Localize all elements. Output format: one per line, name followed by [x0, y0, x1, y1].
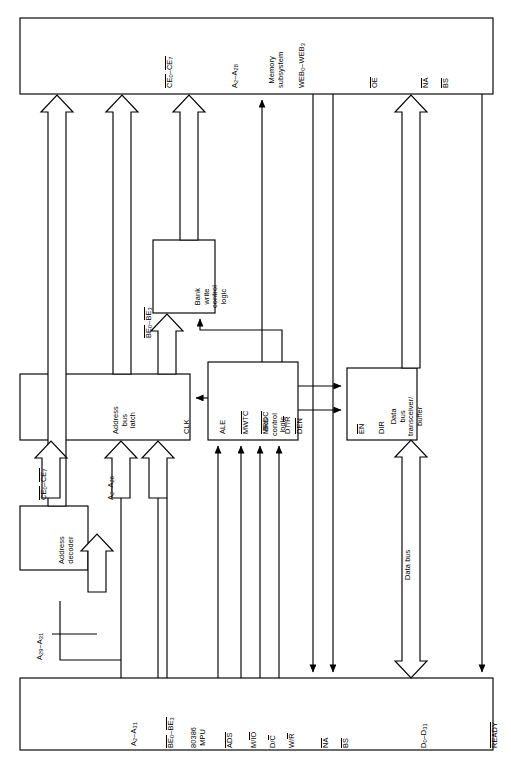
chip-enable-bus-label: CE0–CE7 — [40, 468, 49, 500]
memory-pin-ce: CE0–CE7 — [166, 56, 175, 88]
mpu-pin-w-r: W/R — [288, 733, 297, 748]
memory-pin-address: A2–A28 — [231, 64, 240, 88]
mpu-title: 80386MPU — [190, 727, 207, 748]
byte-enable-bus-label: BE0–BE3 — [145, 307, 154, 338]
bank-write-control-logic-label: Bankwritecontrollogic — [194, 285, 229, 308]
bus-control-pin-mwtc: MWTC — [242, 411, 251, 434]
memory-pin-bs: BS — [442, 78, 451, 88]
mpu-pin-m-io: M/IO — [250, 732, 259, 748]
mpu-pin-na: NA — [322, 738, 331, 748]
address-bus-label: A2–A28 — [107, 476, 116, 500]
transceiver-pin-dir: DIR — [378, 421, 387, 434]
diagram-canvas: CE0–CE7 A2–A28 WEB0–WEB3 Memorysubsystem… — [0, 0, 511, 765]
mpu-pin-address: A2–A31 — [130, 722, 139, 746]
data-bus-transceiver-label: Databustransceiver/buffer — [390, 397, 425, 436]
memory-pin-na: NA — [422, 78, 431, 88]
memory-subsystem-title: Memorysubsystem — [268, 52, 285, 88]
mpu-pin-ready: READY — [491, 722, 500, 748]
mpu-pin-ads: ADS — [226, 733, 235, 749]
address-bus-latch-label: Addressbuslatch — [112, 406, 138, 434]
bus-control-pin-den: DEN — [296, 418, 305, 434]
data-bus-label: Data bus — [404, 550, 413, 580]
memory-pin-oe: OE — [371, 77, 380, 88]
memory-pin-web: WEB0–WEB3 — [298, 43, 307, 88]
mpu-pin-data: D0–D31 — [420, 723, 429, 748]
mpu-pin-byte-enable: BE0–BE3 — [167, 717, 176, 748]
transceiver-pin-en: EN — [358, 424, 367, 434]
mpu-pin-d-c: D/C — [269, 735, 278, 748]
address-decoder-label: Addressdecoder — [58, 536, 75, 564]
bus-control-logic-label: Buscontrollogic — [262, 413, 288, 436]
address-bus-latch-clk-pin: CLK — [183, 419, 192, 434]
bus-control-pin-ale: ALE — [219, 420, 228, 434]
upper-address-bus-label: A29–A31 — [36, 633, 45, 660]
mpu-pin-bs: BS — [342, 738, 351, 748]
diagram-lines — [0, 0, 511, 765]
